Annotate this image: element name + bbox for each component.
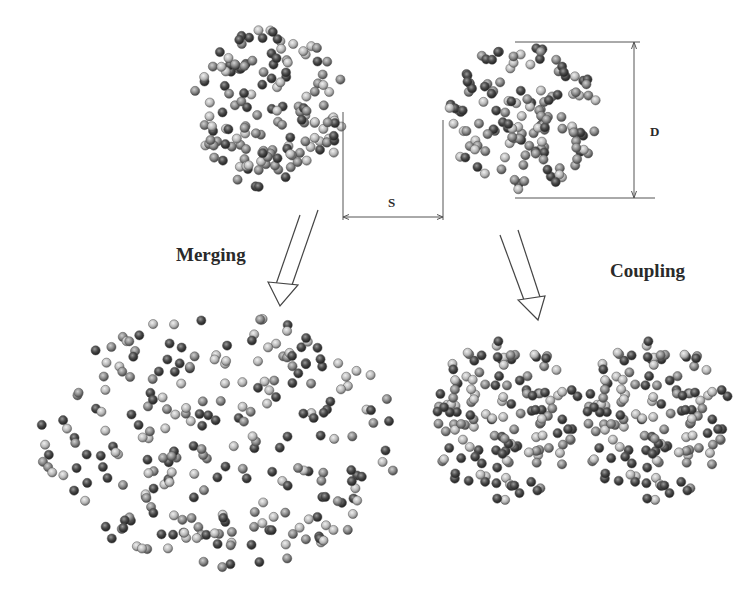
- particle: [283, 554, 292, 563]
- particle: [191, 86, 200, 95]
- particle: [570, 72, 579, 81]
- particle: [276, 78, 285, 87]
- particle: [690, 388, 699, 397]
- particle: [480, 169, 489, 178]
- particle: [665, 376, 674, 385]
- particle: [158, 393, 167, 402]
- particle: [200, 72, 209, 81]
- particle: [625, 368, 634, 377]
- particle: [302, 156, 311, 165]
- particle: [336, 75, 345, 84]
- particle: [255, 558, 264, 567]
- particle: [473, 162, 482, 171]
- particle: [190, 469, 199, 478]
- particle: [499, 412, 508, 421]
- particle: [539, 155, 548, 164]
- particle: [259, 68, 268, 77]
- particle: [135, 331, 144, 340]
- particle: [169, 530, 178, 539]
- particle: [517, 112, 526, 121]
- particle: [382, 395, 391, 404]
- diameter-d-label: D: [650, 124, 659, 140]
- particle: [313, 343, 322, 352]
- particle: [251, 129, 260, 138]
- particle: [441, 427, 450, 436]
- particle: [71, 438, 80, 447]
- particle: [651, 495, 660, 504]
- particle: [378, 457, 387, 466]
- particle: [614, 476, 623, 485]
- particle: [126, 372, 135, 381]
- particle: [642, 479, 651, 488]
- particle: [217, 62, 226, 71]
- particle: [70, 486, 79, 495]
- particle: [253, 357, 262, 366]
- particle: [540, 388, 549, 397]
- particle: [159, 453, 168, 462]
- particle: [250, 522, 259, 531]
- particle: [207, 122, 216, 131]
- particle: [206, 136, 215, 145]
- particle: [510, 425, 519, 434]
- particle: [169, 511, 178, 520]
- particle: [493, 353, 502, 362]
- particle: [599, 365, 608, 374]
- particle: [154, 367, 163, 376]
- particle: [317, 476, 326, 485]
- particle: [256, 315, 265, 324]
- particle: [558, 387, 567, 396]
- particle: [601, 376, 610, 385]
- particle: [707, 460, 716, 469]
- particle: [177, 343, 186, 352]
- particle: [129, 352, 138, 361]
- particle: [631, 380, 640, 389]
- particle: [352, 366, 361, 375]
- particle: [137, 544, 146, 553]
- particle: [197, 316, 206, 325]
- particle: [474, 119, 483, 128]
- particle: [302, 333, 311, 342]
- particle: [189, 493, 198, 502]
- particle: [591, 96, 600, 105]
- particle: [708, 387, 717, 396]
- particle: [445, 103, 454, 112]
- particle: [613, 348, 622, 357]
- particle: [683, 486, 692, 495]
- particle: [521, 151, 530, 160]
- particle: [101, 522, 110, 531]
- particle: [205, 98, 214, 107]
- particle: [59, 416, 68, 425]
- particle: [499, 360, 508, 369]
- particle: [148, 395, 157, 404]
- cluster-initial-left: [191, 26, 346, 192]
- particle: [134, 420, 143, 429]
- particle: [497, 165, 506, 174]
- particle: [258, 149, 267, 158]
- particle: [717, 386, 726, 395]
- particle: [462, 127, 471, 136]
- particle: [222, 356, 231, 365]
- particle: [652, 381, 661, 390]
- particle: [281, 540, 290, 549]
- particle: [586, 389, 595, 398]
- particle: [224, 125, 233, 134]
- particle: [278, 120, 287, 129]
- particle: [310, 118, 319, 127]
- particle: [319, 468, 328, 477]
- particle: [615, 442, 624, 451]
- particle: [573, 155, 582, 164]
- particle-clusters: [37, 26, 732, 572]
- particle: [101, 385, 110, 394]
- particle: [323, 118, 332, 127]
- particle: [366, 406, 375, 415]
- particle: [552, 365, 561, 374]
- particle: [41, 440, 50, 449]
- particle: [281, 68, 290, 77]
- particle: [582, 80, 591, 89]
- particle: [621, 452, 630, 461]
- particle: [198, 421, 207, 430]
- particle: [163, 355, 172, 364]
- particle: [267, 74, 276, 83]
- particle: [182, 403, 191, 412]
- particle: [283, 481, 292, 490]
